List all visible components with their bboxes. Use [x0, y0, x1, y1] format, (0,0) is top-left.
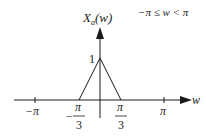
spectrum-diagram: Xa(w) −π ≤ w < π 1 w −π π − π 3 π 3 [0, 0, 206, 136]
domain-note: −π ≤ w < π [138, 6, 189, 18]
x-axis-label: w [192, 93, 200, 107]
peak-label: 1 [89, 52, 95, 66]
tick-label-pos-pi3-num: π [117, 100, 124, 114]
tick-label-neg-pi: −π [25, 104, 40, 118]
x-axis-arrow-icon [180, 96, 192, 104]
tick-label-pos-pi: π [160, 104, 167, 118]
y-axis-label: Xa(w) [82, 10, 112, 27]
tick-label-neg-pi3-sign: − [66, 109, 73, 123]
y-axis-arrow-icon [96, 27, 104, 39]
tick-label-neg-pi3-den: 3 [76, 118, 82, 132]
tick-label-pos-pi3-den: 3 [118, 118, 124, 132]
tick-label-neg-pi3-num: π [75, 100, 82, 114]
